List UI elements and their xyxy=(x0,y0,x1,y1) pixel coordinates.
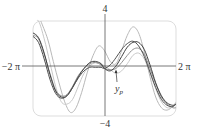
x-tick-label-min: −2 π xyxy=(2,61,20,72)
annotation-label-subscript: p xyxy=(118,88,123,96)
series-line-medium xyxy=(33,35,176,108)
annotation-arrowhead xyxy=(115,70,118,74)
annotation-label: yp xyxy=(114,83,123,96)
series-line-dark-2 xyxy=(33,36,176,106)
x-tick-label-max: 2 π xyxy=(178,61,191,72)
y-tick-label-max: 4 xyxy=(103,3,108,14)
chart: 4 −4 −2 π 2 π yp xyxy=(0,0,198,138)
y-tick-label-min: −4 xyxy=(100,118,111,129)
